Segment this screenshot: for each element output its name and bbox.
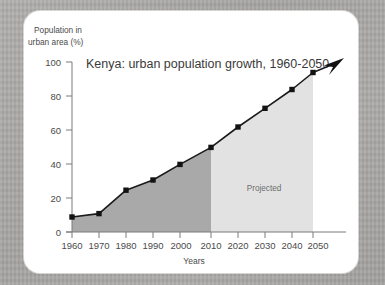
y-tick-label-60: 60 [50,125,61,136]
chart-card: Population in urban area (%) Kenya: urba… [24,11,358,273]
chart-figure: Population in urban area (%) Kenya: urba… [24,11,358,273]
x-tick-label-1980: 1980 [115,240,136,251]
y-tick-label-40: 40 [50,159,61,170]
data-point-1960 [69,214,74,219]
projected-annotation: Projected [247,184,282,193]
chart-title: Kenya: urban population growth, 1960-205… [86,57,329,71]
x-tick-label-2010: 2010 [200,240,221,251]
projected-area [211,73,313,233]
data-point-2020 [235,124,240,129]
x-tick-label-1960: 1960 [61,240,82,251]
y-tick-label-100: 100 [45,57,61,68]
y-axis-label-line2: urban area (%) [28,37,84,47]
data-point-1990 [150,177,155,182]
x-tick-label-2040: 2040 [281,240,302,251]
historical-area [72,147,211,232]
x-tick-label-1990: 1990 [142,240,163,251]
x-tick-label-2050: 2050 [307,240,328,251]
data-point-2030 [262,106,267,111]
data-point-2050 [310,70,315,75]
data-point-2010 [208,145,213,150]
data-point-2000 [177,162,182,167]
population-growth-chart: Population in urban area (%) Kenya: urba… [24,11,358,273]
y-axis-ticks: 0 20 40 60 80 100 [45,57,72,238]
x-tick-label-2020: 2020 [227,240,248,251]
x-tick-label-2030: 2030 [254,240,275,251]
data-point-2040 [289,87,294,92]
area-fills [72,73,313,233]
y-tick-label-80: 80 [50,91,61,102]
x-tick-label-2000: 2000 [170,240,191,251]
x-tick-label-1970: 1970 [88,240,109,251]
y-tick-label-20: 20 [50,193,61,204]
y-tick-label-0: 0 [56,227,61,238]
data-point-1980 [123,188,128,193]
data-point-1970 [96,211,101,216]
y-axis-label-line1: Population in [34,25,82,35]
x-axis-ticks: 1960 1970 1980 1990 2000 2010 2020 2030 … [61,232,328,251]
x-axis-title: Years [183,256,204,266]
